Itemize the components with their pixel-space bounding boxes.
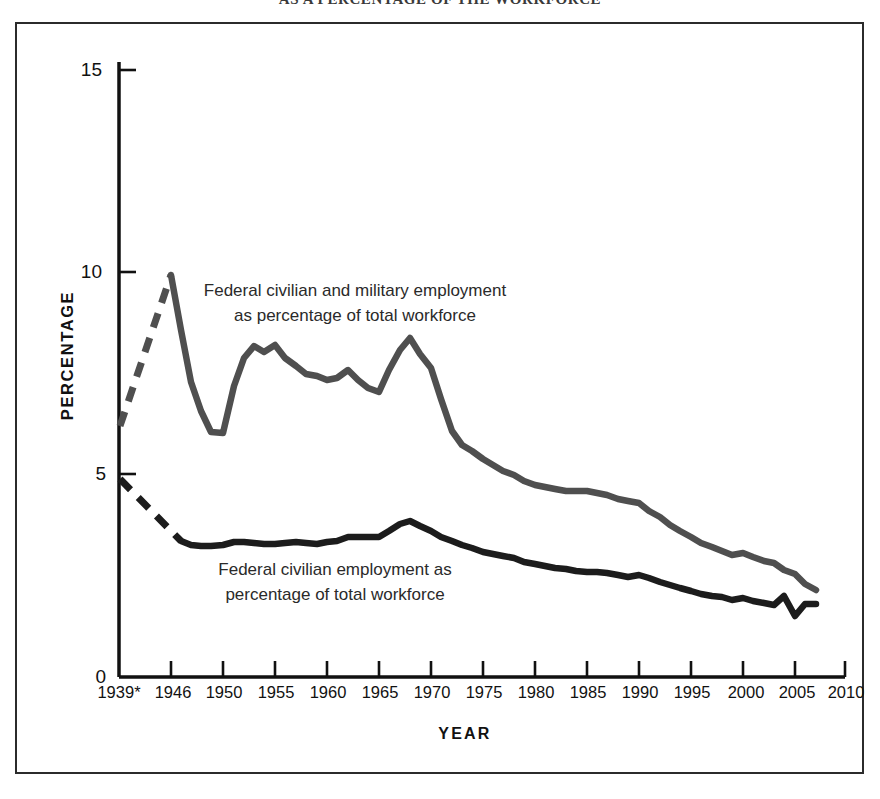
figure-title: AS A PERCENTAGE OF THE WORKFORCE — [0, 0, 880, 7]
x-tick-label-1985: 1985 — [570, 684, 607, 701]
x-tick-label-1950: 1950 — [206, 684, 243, 701]
chart-frame-box — [15, 22, 864, 774]
annotation-lower-line2: percentage of total workforce — [175, 582, 495, 607]
x-axis-title: YEAR — [80, 725, 850, 743]
annotation-upper-line1: Federal civilian and military employment — [190, 278, 520, 303]
annotation-lower-line1: Federal civilian employment as — [175, 557, 495, 582]
x-tick-label-1960: 1960 — [310, 684, 347, 701]
x-tick-label-1955: 1955 — [258, 684, 295, 701]
x-tick-label-2005: 2005 — [779, 684, 816, 701]
y-axis-title: PERCENTAGE — [58, 276, 77, 436]
x-tick-label-1980: 1980 — [518, 684, 555, 701]
annotation-upper-series: Federal civilian and military employment… — [190, 278, 520, 328]
x-tick-label-1975: 1975 — [466, 684, 503, 701]
y-tick-label-15: 15 — [58, 60, 102, 79]
x-tick-label-2010: 2010 — [828, 684, 865, 701]
y-tick-label-5: 5 — [62, 464, 106, 483]
x-tick-label-1946: 1946 — [155, 684, 192, 701]
figure-page: AS A PERCENTAGE OF THE WORKFORCE — [0, 0, 880, 799]
x-tick-label-1939: 1939* — [97, 684, 140, 701]
x-tick-label-1995: 1995 — [674, 684, 711, 701]
x-tick-label-1965: 1965 — [362, 684, 399, 701]
x-tick-label-2000: 2000 — [728, 684, 765, 701]
annotation-upper-line2: as percentage of total workforce — [190, 303, 520, 328]
annotation-lower-series: Federal civilian employment as percentag… — [175, 557, 495, 607]
x-tick-label-1990: 1990 — [622, 684, 659, 701]
x-tick-label-1970: 1970 — [414, 684, 451, 701]
